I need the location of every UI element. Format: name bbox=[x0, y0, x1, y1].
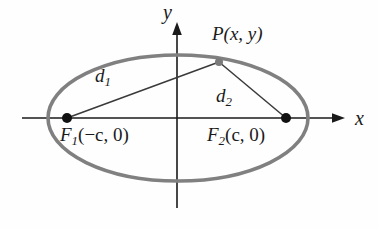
focus-1-point bbox=[62, 113, 72, 123]
distance-d1-letter: d bbox=[95, 65, 105, 86]
focus-1-letter: F bbox=[60, 124, 72, 145]
ellipse-figure: y x P(x, y) d1 d2 F1(−c, 0) F2(c, 0) bbox=[0, 0, 378, 229]
y-axis-arrowhead-icon bbox=[172, 22, 182, 35]
distance-d1-subscript: 1 bbox=[105, 74, 111, 89]
point-p-marker bbox=[215, 58, 223, 66]
focus-1-subscript: 1 bbox=[72, 133, 78, 148]
distance-d1-label: d1 bbox=[95, 66, 111, 85]
focus-1-label: F1(−c, 0) bbox=[60, 125, 129, 144]
figure-canvas bbox=[0, 0, 378, 229]
point-p-label: P(x, y) bbox=[212, 24, 263, 43]
distance-d2-label: d2 bbox=[216, 86, 232, 105]
x-axis-label: x bbox=[355, 108, 364, 128]
x-axis-arrowhead-icon bbox=[332, 113, 345, 123]
focus-1-coords: (−c, 0) bbox=[78, 124, 129, 145]
focus-2-coords: (c, 0) bbox=[225, 124, 265, 145]
y-axis-label: y bbox=[163, 2, 172, 22]
distance-d2-subscript: 2 bbox=[226, 94, 232, 109]
focus-2-point bbox=[281, 113, 291, 123]
focus-2-subscript: 2 bbox=[219, 133, 225, 148]
distance-d2-letter: d bbox=[216, 85, 226, 106]
focus-2-letter: F bbox=[207, 124, 219, 145]
focus-2-label: F2(c, 0) bbox=[207, 125, 265, 144]
